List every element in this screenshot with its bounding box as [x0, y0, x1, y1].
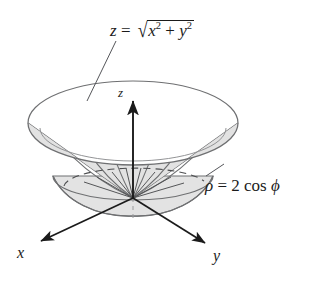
sphere-equation-lhs: ρ: [205, 176, 213, 195]
z-axis-label: z: [118, 86, 123, 99]
radicand-term1-base: x: [148, 21, 156, 40]
radicand-term2-base: y: [179, 21, 187, 40]
sphere-equation-leader-line: [206, 164, 224, 176]
sphere-equation-argument: ϕ: [271, 176, 280, 195]
y-axis-label: y: [213, 248, 220, 264]
sphere-equation-equals: =: [217, 176, 227, 195]
cone-equation-label: z = √x2 + y2: [110, 19, 193, 40]
radical-group: √x2 + y2: [135, 19, 193, 40]
solid-of-revolution-diagram: [0, 0, 328, 283]
cone-equation-lhs: z: [110, 21, 117, 40]
figure-container: z = √x2 + y2 ρ = 2 cos ϕ x y z: [0, 0, 328, 283]
x-axis-label: x: [17, 245, 24, 261]
radicand-term2-exponent: 2: [187, 20, 192, 31]
sphere-equation-coefficient: 2: [231, 176, 240, 195]
radicand-plus: +: [165, 21, 175, 40]
radicand-group: x2 + y2: [147, 22, 193, 39]
sphere-equation-function: cos: [244, 176, 267, 195]
sphere-equation-label: ρ = 2 cos ϕ: [205, 177, 280, 194]
cone-equation-leader-line: [87, 41, 116, 101]
radical-sign-icon: √: [138, 20, 148, 41]
